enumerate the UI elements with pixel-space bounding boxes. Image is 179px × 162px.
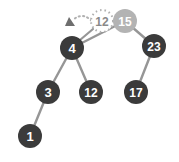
node-12-label: 12 <box>84 86 98 100</box>
node-1[interactable]: 1 <box>18 124 42 148</box>
node-4[interactable]: 4 <box>60 36 84 60</box>
node-23[interactable]: 23 <box>142 34 166 58</box>
node-3[interactable]: 3 <box>36 80 60 104</box>
edge-group <box>30 21 154 136</box>
node-12[interactable]: 12 <box>79 80 103 104</box>
ghost-node-label: 12 <box>95 15 109 29</box>
node-4-label: 4 <box>68 41 76 56</box>
pointer-arrowhead-icon <box>65 17 75 26</box>
tree-diagram-canvas: 12 4 15 23 3 12 <box>0 0 179 162</box>
ghost-node-12: 12 <box>91 10 113 32</box>
node-15-label: 15 <box>118 15 132 29</box>
node-17[interactable]: 17 <box>124 80 148 104</box>
node-15[interactable]: 15 <box>113 9 137 33</box>
node-17-label: 17 <box>129 86 143 100</box>
node-3-label: 3 <box>44 85 51 100</box>
tree-diagram-svg: 12 4 15 23 3 12 <box>0 0 179 162</box>
node-23-label: 23 <box>147 40 161 54</box>
node-1-label: 1 <box>26 129 33 144</box>
